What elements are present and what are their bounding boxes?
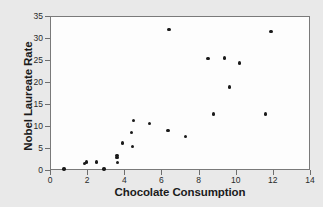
x-axis-label: Chocolate Consumption <box>50 186 310 198</box>
x-axis-tick-label: 6 <box>151 175 171 185</box>
data-point <box>102 167 105 170</box>
scatter-chart: Nobel Laureate Rate Chocolate Consumptio… <box>0 0 323 207</box>
data-point <box>223 56 226 59</box>
data-point <box>85 160 88 163</box>
data-point <box>115 156 118 159</box>
data-point <box>166 129 169 132</box>
y-axis-tick-label: 10 <box>24 122 43 131</box>
data-point <box>184 135 187 138</box>
data-point <box>148 122 151 125</box>
y-axis-tick-label: 15 <box>24 100 43 109</box>
y-axis-tick-label: 25 <box>24 56 43 65</box>
data-point <box>131 145 134 148</box>
y-axis-tick <box>45 82 50 83</box>
y-axis-tick <box>45 60 50 61</box>
x-axis-tick-label: 10 <box>226 175 246 185</box>
x-axis-tick-label: 12 <box>263 175 283 185</box>
x-axis-tick-label: 2 <box>77 175 97 185</box>
x-axis-tick-label: 0 <box>40 175 60 185</box>
data-point <box>167 28 170 31</box>
data-point <box>269 30 272 33</box>
x-axis-tick-label: 14 <box>300 175 320 185</box>
data-point <box>116 161 119 164</box>
data-point <box>62 167 65 170</box>
y-axis-tick-label: 35 <box>24 12 43 21</box>
data-point <box>228 85 231 88</box>
data-point <box>130 131 133 134</box>
data-point <box>121 141 124 144</box>
y-axis-tick-label: 0 <box>24 166 43 175</box>
plot-area <box>50 16 310 170</box>
x-axis-tick-label: 8 <box>189 175 209 185</box>
x-axis-tick-label: 4 <box>114 175 134 185</box>
y-axis-tick <box>45 38 50 39</box>
data-point <box>264 112 267 115</box>
data-point <box>95 160 98 163</box>
y-axis-tick-label: 30 <box>24 34 43 43</box>
y-axis-tick <box>45 126 50 127</box>
y-axis-tick <box>45 148 50 149</box>
data-point <box>212 112 215 115</box>
data-point <box>132 119 135 122</box>
data-point <box>238 61 241 64</box>
data-point <box>206 57 209 60</box>
y-axis-tick-label: 5 <box>24 144 43 153</box>
y-axis-tick-label: 20 <box>24 78 43 87</box>
y-axis-tick <box>45 16 50 17</box>
y-axis-tick <box>45 104 50 105</box>
